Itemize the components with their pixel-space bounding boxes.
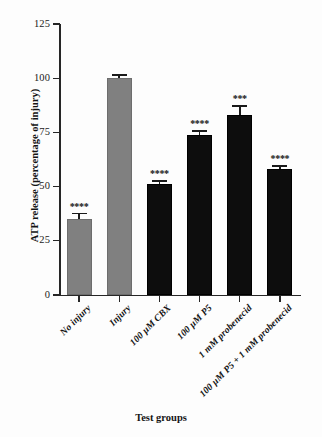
error-bar-5 [271, 165, 289, 169]
x-tick-mark [78, 296, 79, 302]
bar-1 [107, 78, 132, 295]
significance-label-5: **** [260, 154, 300, 164]
x-category-label-1: Injury [107, 302, 133, 328]
error-bar-0 [70, 213, 88, 220]
x-tick-mark [239, 296, 240, 302]
y-axis-line [59, 24, 61, 296]
error-bar-cap [72, 213, 87, 215]
error-bar-cap [152, 180, 167, 182]
y-tick-mark [53, 186, 60, 187]
y-tick-label: 75 [39, 127, 50, 138]
significance-label-3: **** [180, 119, 220, 129]
y-tick-label: 25 [39, 235, 50, 246]
bar-5 [267, 169, 292, 295]
error-bar-cap [272, 165, 287, 167]
error-bar-cap [232, 105, 247, 107]
x-tick-mark [159, 296, 160, 302]
y-tick-mark [53, 78, 60, 79]
x-category-label-3: 100 µM P5 [174, 302, 213, 341]
y-tick-mark [53, 294, 60, 295]
y-tick-label: 50 [39, 181, 50, 192]
x-category-label-2: 100 µM CBX [128, 302, 174, 348]
significance-label-2: **** [139, 169, 179, 179]
significance-label-4: *** [220, 94, 260, 104]
y-tick-mark [53, 240, 60, 241]
error-bar-3 [191, 130, 209, 134]
x-tick-mark [279, 296, 280, 302]
y-tick-label: 125 [34, 19, 50, 30]
bar-0 [67, 219, 92, 295]
error-bar-1 [110, 74, 128, 78]
significance-label-0: **** [59, 202, 99, 212]
y-tick-mark [53, 23, 60, 24]
error-bar-4 [231, 105, 249, 115]
y-axis-title: ATP release (percentage of injury) [29, 46, 40, 286]
error-bar-2 [150, 180, 168, 184]
x-tick-mark [199, 296, 200, 302]
bar-2 [147, 184, 172, 295]
bar-3 [187, 135, 212, 295]
error-bar-cap [112, 74, 127, 76]
x-tick-mark [119, 296, 120, 302]
figure-panel: 0255075100125 ******************* No inj… [0, 0, 322, 437]
bar-4 [227, 115, 252, 295]
y-tick-label: 0 [45, 290, 50, 301]
x-axis-title: Test groups [0, 412, 322, 423]
x-category-label-0: No injury [57, 302, 92, 337]
bar-chart: 0255075100125 ******************* No inj… [0, 0, 322, 437]
error-bar-cap [192, 130, 207, 132]
y-tick-mark [53, 132, 60, 133]
x-axis-line [59, 295, 301, 297]
